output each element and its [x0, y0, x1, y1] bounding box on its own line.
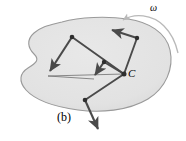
- node-lower-left-dot: [83, 98, 88, 103]
- center-point-label: C: [128, 68, 135, 79]
- node-middle-dot: [102, 60, 106, 64]
- node-upper-left-dot: [70, 35, 75, 40]
- diagram-canvas: [0, 0, 186, 141]
- center-point-dot: [122, 72, 127, 77]
- panel-label: (b): [57, 111, 71, 123]
- rigid-body-outline: [21, 17, 171, 111]
- figure-rigid-body-velocity: C ω (b): [0, 0, 186, 141]
- node-upper-right-dot: [135, 36, 139, 40]
- angular-velocity-label: ω: [150, 3, 157, 13]
